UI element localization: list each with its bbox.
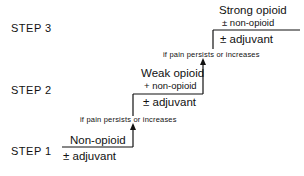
step-1-label: STEP 1 [11, 146, 52, 157]
step-3-combo: ± non-opioid [222, 18, 274, 28]
step-2-label: STEP 2 [11, 85, 52, 96]
transition-note-2: if pain persists or increases [163, 51, 260, 59]
arrow-up-icon [200, 58, 206, 65]
arrow-up-icon [130, 123, 136, 130]
transition-note-1: if pain persists or increases [80, 116, 177, 124]
step-2-addition: ± adjuvant [143, 97, 196, 109]
step-3-drug: Strong opioid [219, 5, 287, 17]
step-1-drug: Non-opioid [70, 135, 126, 147]
step-1-addition: ± adjuvant [63, 151, 116, 163]
step-3-addition: ± adjuvant [220, 34, 273, 46]
step-2-combo: + non-opioid [144, 81, 197, 91]
step-2-drug: Weak opioid [141, 68, 204, 80]
step-3-label: STEP 3 [11, 23, 52, 34]
